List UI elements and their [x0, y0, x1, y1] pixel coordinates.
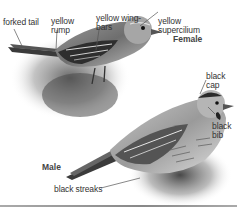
label-yellow-rump: yellow rump	[51, 8, 74, 35]
label-female: Female	[173, 34, 202, 44]
label-text: yellow supercilium	[158, 16, 200, 35]
label-male: Male	[42, 162, 61, 172]
label-black-bib: black bib	[212, 113, 231, 140]
label-text: yellow rump	[51, 16, 74, 35]
label-yellow-supercilium: yellow supercilium	[158, 8, 200, 35]
divider-rule	[0, 205, 237, 207]
label-black-streaks: black streaks	[54, 185, 102, 194]
label-black-cap: black cap	[206, 63, 225, 90]
label-text: yellow wing- bars	[96, 13, 141, 32]
label-forked-tail: forked tail	[3, 18, 39, 27]
bird-identification-figure: forked tail yellow rump yellow wing- bar…	[0, 0, 237, 211]
label-text: black streaks	[54, 184, 102, 194]
label-text: forked tail	[3, 17, 39, 27]
label-text: black bib	[212, 121, 231, 140]
label-text: black cap	[206, 71, 225, 90]
label-yellow-wing-bars: yellow wing- bars	[96, 5, 141, 32]
